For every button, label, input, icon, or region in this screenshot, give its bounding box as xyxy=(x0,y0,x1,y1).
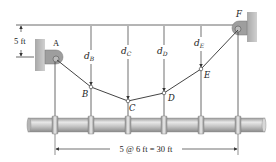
node-e xyxy=(199,67,203,71)
point-c-label: C xyxy=(129,103,136,113)
pulley-f-icon xyxy=(235,26,241,32)
point-b-label: B xyxy=(81,89,88,99)
left-wall xyxy=(35,39,45,71)
node-d xyxy=(162,91,166,95)
pipe-left-end xyxy=(27,118,31,132)
clamp-b xyxy=(88,116,94,134)
clamp-c xyxy=(125,116,131,134)
cable-pipe-diagram: 5 ft A F dB dC dD dE B C D E xyxy=(0,0,276,162)
node-b xyxy=(89,85,93,89)
point-f-label: F xyxy=(235,9,243,19)
pipe-right-end xyxy=(262,118,266,132)
point-a-label: A xyxy=(53,38,60,48)
clamp-e xyxy=(198,116,204,134)
point-d-label: D xyxy=(167,93,175,103)
pipe xyxy=(28,118,265,132)
five-ft-label: 5 ft xyxy=(14,36,26,46)
clamp-f xyxy=(235,116,241,134)
clamp-a xyxy=(52,116,58,134)
right-wall xyxy=(247,12,257,42)
span-label: 5 @ 6 ft = 30 ft xyxy=(120,144,173,154)
point-e-label: E xyxy=(203,70,211,80)
clamp-d xyxy=(161,116,167,134)
